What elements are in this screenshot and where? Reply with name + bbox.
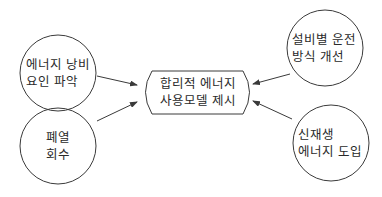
node-label-waste-factor: 에너지 낭비 요인 파악 <box>26 56 90 90</box>
arrow-waste-heat <box>97 102 137 121</box>
node-label-line2: 요인 파악 <box>26 73 90 90</box>
center-label-line1: 합리적 에너지 <box>148 75 248 92</box>
center-label: 합리적 에너지 사용모델 제시 <box>148 75 248 109</box>
node-label-equipment-operation: 설비별 운전 방식 개선 <box>292 31 356 65</box>
node-label-line2: 에너지 도입 <box>298 143 362 160</box>
node-label-renewable: 신재생 에너지 도입 <box>298 126 362 160</box>
node-label-waste-heat: 폐열 회수 <box>28 129 88 163</box>
node-label-line1: 에너지 낭비 <box>26 56 90 73</box>
node-label-line1: 신재생 <box>298 126 362 143</box>
node-label-line1: 폐열 <box>28 129 88 146</box>
arrow-renewable <box>253 101 292 119</box>
node-label-line2: 회수 <box>28 146 88 163</box>
node-label-line2: 방식 개선 <box>292 48 356 65</box>
node-label-line1: 설비별 운전 <box>292 31 356 48</box>
arrow-equipment-operation <box>253 74 290 84</box>
center-label-line2: 사용모델 제시 <box>148 92 248 109</box>
arrow-waste-factor <box>97 76 137 85</box>
